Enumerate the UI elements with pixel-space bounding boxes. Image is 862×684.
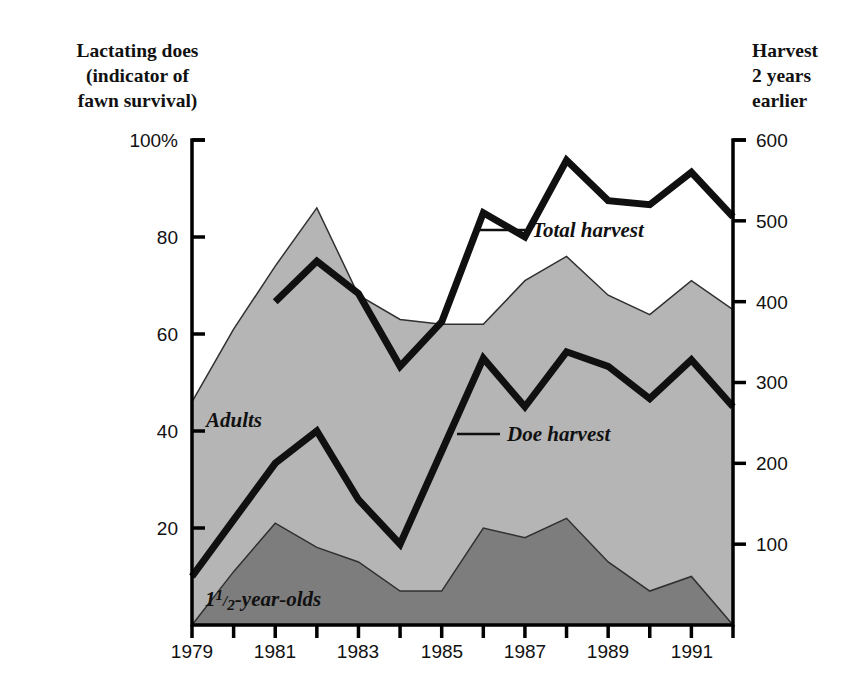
chart-canvas: Adults 11/2-year-olds Total harvest Doe …: [0, 0, 862, 684]
doe-harvest-label: Doe harvest: [506, 422, 611, 446]
x-axis-ticks: [192, 625, 733, 638]
yearlings-label-one: 1: [205, 587, 216, 611]
yearlings-label-numerator: 1: [216, 587, 224, 603]
chart-figure: Lactating does (indicator of fawn surviv…: [0, 0, 862, 684]
adults-label: Adults: [204, 408, 262, 432]
right-axis-ticks: [733, 140, 746, 544]
yearlings-label-suffix: -year-olds: [235, 587, 321, 611]
total-harvest-label: Total harvest: [532, 218, 645, 242]
